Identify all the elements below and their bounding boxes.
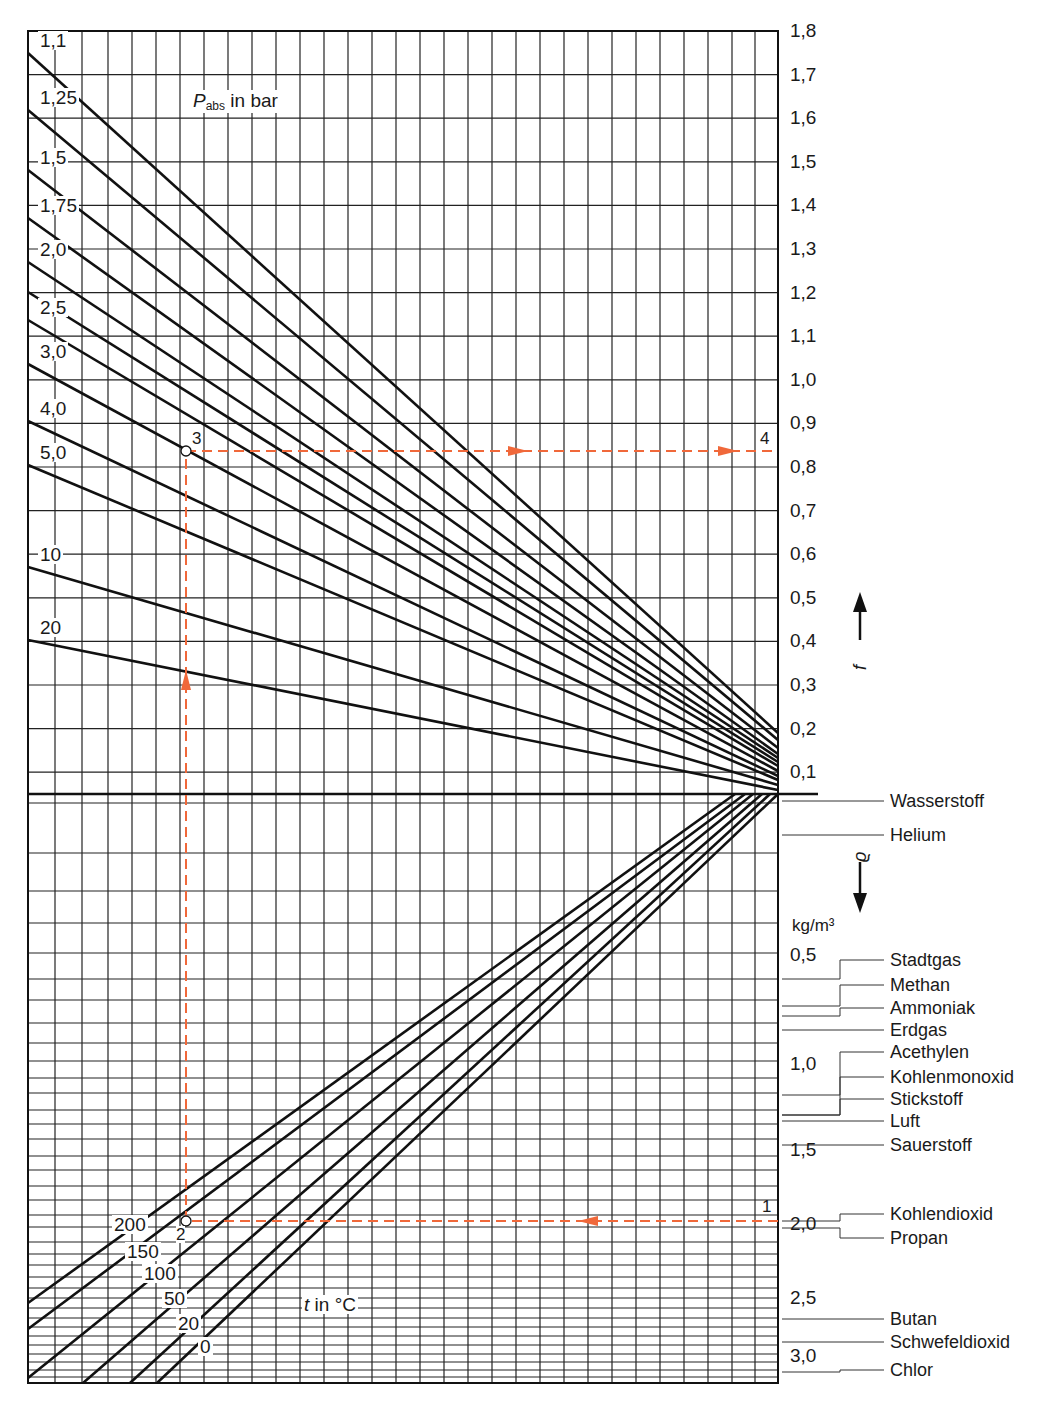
density-axis-tick: 2,0 [790,1214,816,1233]
gas-label: Propan [890,1229,948,1247]
gas-label: Helium [890,826,946,844]
fl-axis-tick: 0,3 [790,675,816,694]
fl-axis-tick: 0,1 [790,762,816,781]
pressure-label: 2,0 [38,240,68,259]
gas-label: Acethylen [890,1043,969,1061]
temperature-label: 50 [162,1289,187,1308]
pressure-label: 1,5 [38,148,68,167]
temperature-label: 200 [112,1215,148,1234]
fl-axis-tick: 0,7 [790,501,816,520]
gas-label: Chlor [890,1361,933,1379]
fl-axis-label: f [850,665,871,670]
density-axis-tick: 1,5 [790,1140,816,1159]
fl-axis-tick: 0,6 [790,544,816,563]
fl-axis-tick: 1,2 [790,283,816,302]
pressure-label: 1,75 [38,196,79,215]
fl-axis-tick: 1,6 [790,108,816,127]
gas-label: Sauerstoff [890,1136,972,1154]
gas-label: Wasserstoff [890,792,984,810]
gas-label: Ammoniak [890,999,975,1017]
nomogram-chart [0,0,1056,1407]
pressure-label: 20 [38,618,63,637]
gas-label: Stickstoff [890,1090,963,1108]
density-axis-tick: 3,0 [790,1346,816,1365]
pressure-label: 1,1 [38,31,68,50]
temperature-series-title: t in °C [302,1295,358,1314]
gas-label: Stadtgas [890,951,961,969]
point-4-label: 4 [760,430,769,447]
fl-axis-tick: 1,8 [790,21,816,40]
density-axis-tick: 2,5 [790,1288,816,1307]
fl-axis-tick: 1,4 [790,195,816,214]
density-unit-label: kg/m³ [792,917,835,934]
gas-label: Erdgas [890,1021,947,1039]
pressure-label: 2,5 [38,298,68,317]
temperature-label: 100 [142,1264,178,1283]
temperature-label: 0 [198,1337,213,1356]
gas-label: Kohlendioxid [890,1205,993,1223]
gas-label: Luft [890,1112,920,1130]
fl-axis-tick: 0,9 [790,413,816,432]
gas-label: Butan [890,1310,937,1328]
pressure-label: 4,0 [38,399,68,418]
fl-axis-tick: 0,8 [790,457,816,476]
grid [28,31,778,1383]
gas-label: Schwefeldioxid [890,1333,1010,1351]
fl-axis-tick: 1,3 [790,239,816,258]
pressure-label: 10 [38,545,63,564]
fl-axis-tick: 1,7 [790,65,816,84]
pressure-label: 3,0 [38,342,68,361]
pressure-label: 5,0 [38,443,68,462]
pressure-label: 1,25 [38,88,79,107]
fl-axis-tick: 0,4 [790,631,816,650]
fl-axis-tick: 0,2 [790,719,816,738]
fl-axis-tick: 0,5 [790,588,816,607]
fl-axis-tick: 1,1 [790,326,816,345]
temperature-label: 20 [176,1314,201,1333]
density-axis-label: ϱ [850,852,871,862]
fl-axis-tick: 1,0 [790,370,816,389]
point-1-label: 1 [762,1198,771,1215]
pressure-series-title: Pabs in bar [190,90,281,113]
density-axis-tick: 1,0 [790,1054,816,1073]
gas-label: Methan [890,976,950,994]
temperature-label: 150 [125,1242,161,1261]
fl-axis-tick: 1,5 [790,152,816,171]
point-2-label: 2 [176,1226,185,1243]
gas-label: Kohlenmonoxid [890,1068,1014,1086]
pressure-lines [28,53,778,790]
temperature-lines [28,794,778,1383]
point-3-label: 3 [192,430,201,447]
density-axis-tick: 0,5 [790,945,816,964]
